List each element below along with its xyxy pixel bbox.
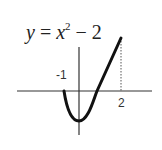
parabola-graph [0, 0, 162, 150]
tick-label-2: 2 [118, 96, 125, 110]
tick-label-neg1: -1 [56, 68, 67, 82]
parabola-curve [64, 38, 121, 121]
